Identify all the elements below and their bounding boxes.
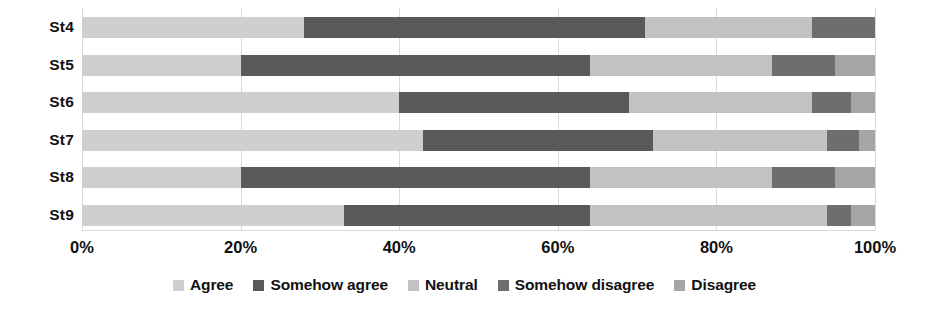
bar-segment-st6-somehow-disagree xyxy=(812,92,852,113)
x-tick-0: 0% xyxy=(42,238,122,257)
legend-item-somehow-disagree[interactable]: Somehow disagree xyxy=(498,276,655,294)
bar-segment-st7-agree xyxy=(82,130,423,151)
category-label-st4: St4 xyxy=(18,18,74,36)
gridline-0 xyxy=(82,8,83,230)
legend-item-neutral[interactable]: Neutral xyxy=(408,276,478,294)
legend-swatch-neutral xyxy=(408,280,419,291)
gridline-100 xyxy=(875,8,876,230)
category-label-st9: St9 xyxy=(18,206,74,224)
category-label-st7: St7 xyxy=(18,131,74,149)
bar-segment-st8-disagree xyxy=(835,167,875,188)
bar-row xyxy=(82,205,875,226)
legend-swatch-agree xyxy=(173,280,184,291)
x-axis-tick-labels: 0%20%40%60%80%100% xyxy=(0,238,929,264)
legend-label-disagree: Disagree xyxy=(691,276,756,294)
x-tick-40: 40% xyxy=(359,238,439,257)
stacked-bar-chart: St4St5St6St7St8St9 0%20%40%60%80%100% Ag… xyxy=(0,0,929,321)
legend-label-agree: Agree xyxy=(190,276,233,294)
gridline-20 xyxy=(241,8,242,230)
bar-segment-st6-disagree xyxy=(851,92,875,113)
bar-segment-st7-somehow-agree xyxy=(423,130,653,151)
bar-segment-st7-somehow-disagree xyxy=(827,130,859,151)
x-axis-line xyxy=(82,230,875,231)
bar-segment-st9-neutral xyxy=(590,205,828,226)
x-tick-20: 20% xyxy=(201,238,281,257)
gridline-40 xyxy=(399,8,400,230)
bar-segment-st6-agree xyxy=(82,92,399,113)
category-label-st5: St5 xyxy=(18,56,74,74)
bar-segment-st8-neutral xyxy=(590,167,772,188)
bar-segment-st6-neutral xyxy=(629,92,811,113)
bar-segment-st4-somehow-disagree xyxy=(812,17,875,38)
bar-row xyxy=(82,92,875,113)
bar-segment-st4-agree xyxy=(82,17,304,38)
bar-segment-st7-neutral xyxy=(653,130,827,151)
bar-segment-st8-somehow-agree xyxy=(241,167,590,188)
bar-segment-st9-somehow-disagree xyxy=(827,205,851,226)
legend-label-neutral: Neutral xyxy=(425,276,478,294)
gridline-80 xyxy=(716,8,717,230)
legend-swatch-somehow-agree xyxy=(253,280,264,291)
bar-segment-st9-disagree xyxy=(851,205,875,226)
bar-row xyxy=(82,55,875,76)
category-label-st8: St8 xyxy=(18,168,74,186)
bar-row xyxy=(82,167,875,188)
bar-row xyxy=(82,17,875,38)
legend-item-agree[interactable]: Agree xyxy=(173,276,233,294)
bar-segment-st4-neutral xyxy=(645,17,812,38)
x-tick-80: 80% xyxy=(676,238,756,257)
legend-label-somehow-disagree: Somehow disagree xyxy=(515,276,655,294)
legend-item-somehow-agree[interactable]: Somehow agree xyxy=(253,276,388,294)
category-label-st6: St6 xyxy=(18,93,74,111)
x-tick-100: 100% xyxy=(835,238,915,257)
bar-segment-st5-somehow-agree xyxy=(241,55,590,76)
legend-label-somehow-agree: Somehow agree xyxy=(270,276,388,294)
chart-legend: AgreeSomehow agreeNeutralSomehow disagre… xyxy=(0,276,929,294)
legend-swatch-somehow-disagree xyxy=(498,280,509,291)
legend-swatch-disagree xyxy=(674,280,685,291)
x-tick-60: 60% xyxy=(518,238,598,257)
gridline-60 xyxy=(558,8,559,230)
bar-segment-st6-somehow-agree xyxy=(399,92,629,113)
bar-segment-st4-somehow-agree xyxy=(304,17,645,38)
bar-segment-st5-disagree xyxy=(835,55,875,76)
legend-item-disagree[interactable]: Disagree xyxy=(674,276,756,294)
bar-segment-st5-agree xyxy=(82,55,241,76)
bar-segment-st9-somehow-agree xyxy=(344,205,590,226)
bar-segment-st5-neutral xyxy=(590,55,772,76)
bar-segment-st8-agree xyxy=(82,167,241,188)
plot-area xyxy=(82,8,875,230)
bar-segment-st5-somehow-disagree xyxy=(772,55,835,76)
bar-segment-st9-agree xyxy=(82,205,344,226)
bar-row xyxy=(82,130,875,151)
bar-segment-st8-somehow-disagree xyxy=(772,167,835,188)
bar-segment-st7-disagree xyxy=(859,130,875,151)
